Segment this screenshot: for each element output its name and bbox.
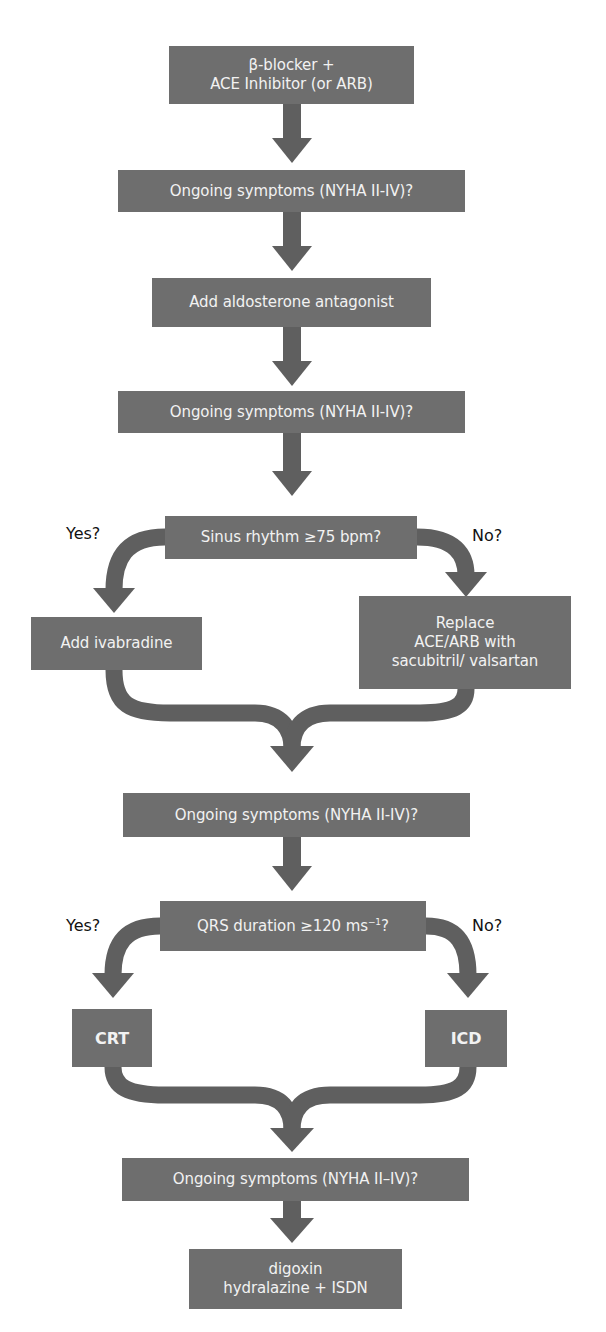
ongoing-symptoms-node-3: Ongoing symptoms (NYHA II-IV)?	[123, 793, 470, 837]
final-therapy-node: digoxin hydralazine + ISDN	[189, 1249, 402, 1309]
ongoing-symptoms-text: Ongoing symptoms (NYHA II-IV)?	[170, 403, 413, 422]
qrs-superscript: −1	[368, 917, 381, 927]
qrs-no-label: No?	[472, 916, 502, 935]
crt-node: CRT	[72, 1009, 152, 1067]
final-line-1: digoxin	[269, 1260, 323, 1279]
qrs-text: QRS duration ≥120 ms−1?	[197, 917, 389, 936]
sinus-rhythm-node: Sinus rhythm ≥75 bpm?	[165, 516, 417, 559]
ongoing-symptoms-text: Ongoing symptoms (NYHA II–IV)?	[173, 1170, 418, 1189]
sinus-yes-label: Yes?	[66, 524, 100, 543]
arrow-head-icon	[447, 973, 489, 998]
ivabradine-node: Add ivabradine	[31, 617, 202, 670]
icd-node: ICD	[425, 1010, 507, 1067]
replace-line-2: ACE/ARB with	[414, 633, 515, 652]
icd-text: ICD	[451, 1029, 482, 1048]
replace-acearb-node: Replace ACE/ARB with sacubitril/ valsart…	[359, 596, 571, 689]
arrow-head-icon	[92, 973, 134, 998]
ongoing-symptoms-text: Ongoing symptoms (NYHA II-IV)?	[170, 182, 413, 201]
ongoing-symptoms-node-4: Ongoing symptoms (NYHA II–IV)?	[122, 1158, 469, 1201]
arrow-head-icon	[445, 572, 487, 597]
arrow-head-icon	[270, 1128, 314, 1152]
sinus-no-label: No?	[472, 526, 502, 545]
qrs-duration-node: QRS duration ≥120 ms−1?	[160, 901, 426, 951]
arrow-head-icon	[93, 588, 135, 613]
qrs-text-main: QRS duration ≥120 ms	[197, 917, 368, 935]
arrow-down-icon	[272, 212, 312, 271]
start-line-1: β-blocker +	[249, 56, 335, 75]
qrs-yes-label: Yes?	[66, 916, 100, 935]
replace-line-3: sacubitril/ valsartan	[392, 652, 539, 671]
arrow-down-icon	[270, 1201, 314, 1243]
sinus-rhythm-text: Sinus rhythm ≥75 bpm?	[201, 528, 381, 547]
arrow-head-icon	[270, 746, 314, 772]
start-node: β-blocker + ACE Inhibitor (or ARB)	[169, 46, 414, 104]
ongoing-symptoms-node-1: Ongoing symptoms (NYHA II-IV)?	[118, 170, 465, 212]
arrow-down-icon	[272, 433, 312, 496]
start-line-2: ACE Inhibitor (or ARB)	[210, 75, 373, 94]
replace-line-1: Replace	[436, 614, 495, 633]
crt-text: CRT	[95, 1029, 129, 1048]
ivabradine-text: Add ivabradine	[61, 634, 173, 653]
aldosterone-node: Add aldosterone antagonist	[152, 278, 431, 327]
final-line-2: hydralazine + ISDN	[223, 1279, 367, 1298]
arrow-down-icon	[272, 104, 312, 163]
ongoing-symptoms-text: Ongoing symptoms (NYHA II-IV)?	[175, 806, 418, 825]
arrow-down-icon	[272, 837, 312, 891]
ongoing-symptoms-node-2: Ongoing symptoms (NYHA II-IV)?	[118, 391, 465, 433]
aldosterone-text: Add aldosterone antagonist	[189, 293, 394, 312]
arrow-down-icon	[272, 327, 312, 386]
qrs-suffix: ?	[381, 917, 389, 935]
